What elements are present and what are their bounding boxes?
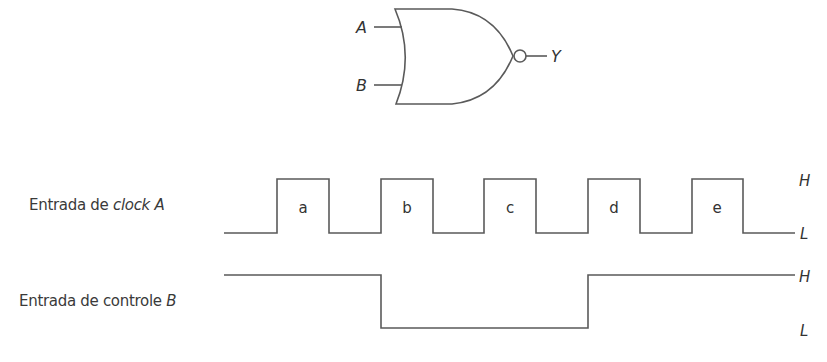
control-high-label: H: [799, 268, 810, 286]
input-b-label: B: [356, 76, 367, 95]
control-b-trace: [224, 275, 795, 328]
nor-gate-body: [395, 9, 513, 104]
control-b-label-text: Entrada de controle: [19, 292, 166, 310]
clock-high-label: H: [799, 172, 810, 190]
pulse-label-e: e: [712, 199, 721, 217]
control-low-label: L: [800, 322, 808, 340]
clock-a-waveform: a b c d e H L: [224, 172, 810, 243]
input-a-label: A: [355, 18, 367, 37]
clock-low-label: L: [800, 225, 808, 243]
clock-a-row-label: Entrada de clock A: [29, 196, 164, 214]
inversion-bubble: [514, 50, 526, 62]
control-b-label-italic: B: [166, 292, 176, 310]
nor-gate: A B Y: [355, 9, 562, 104]
pulse-label-c: c: [506, 199, 514, 217]
clock-a-label-italic: clock A: [113, 196, 164, 214]
control-b-row-label: Entrada de controle B: [19, 292, 176, 310]
pulse-label-a: a: [298, 199, 307, 217]
control-b-waveform: H L: [224, 268, 810, 340]
pulse-label-b: b: [402, 199, 412, 217]
output-y-label: Y: [551, 47, 562, 66]
clock-a-label-text: Entrada de: [29, 196, 113, 214]
pulse-label-d: d: [609, 199, 619, 217]
